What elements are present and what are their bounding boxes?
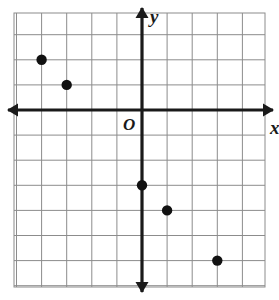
coordinate-plane-svg: x y O	[0, 0, 279, 300]
grid-border	[14, 13, 265, 287]
data-point	[36, 55, 46, 65]
data-point	[212, 255, 222, 265]
x-axis-arrow-right-icon	[263, 104, 274, 117]
data-point	[162, 205, 172, 215]
x-axis-label: x	[269, 117, 279, 138]
origin-label: O	[123, 115, 135, 134]
data-point	[61, 80, 71, 90]
y-axis-label: y	[148, 6, 159, 27]
x-axis-arrow-left-icon	[7, 104, 18, 117]
grid-lines	[14, 13, 265, 287]
data-point	[137, 180, 147, 190]
axes-group	[7, 7, 274, 293]
coordinate-plane-figure: x y O	[0, 0, 279, 300]
